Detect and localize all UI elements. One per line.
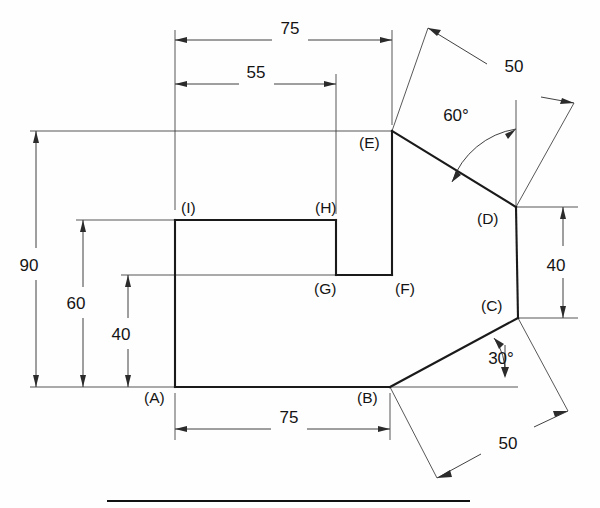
ext-line-50-lower-from-B — [390, 387, 437, 478]
extension-lines — [30, 28, 578, 478]
vertex-label-B: (B) — [357, 389, 378, 406]
arrowhead-lower-50-end — [553, 411, 568, 417]
dimension-lower-50: 50 — [437, 411, 568, 478]
dim-label-left-60: 60 — [67, 294, 86, 313]
dim-label-lower-50: 50 — [499, 434, 518, 453]
arrowhead-upper-50-end — [560, 98, 574, 104]
edge-C-D — [516, 207, 518, 318]
part-outline — [175, 131, 518, 387]
arrowhead-bottom-75-start — [175, 426, 187, 432]
arrowhead-top-75-end — [380, 37, 392, 43]
vertex-label-I: (I) — [181, 199, 196, 216]
dimension-left-40: 40 — [112, 275, 131, 387]
vertex-label-F: (F) — [395, 280, 415, 297]
vertex-label-A: (A) — [144, 389, 165, 406]
dim-line-lower-50-b — [534, 411, 568, 427]
dim-label-upper-50: 50 — [505, 57, 524, 76]
dim-label-left-40: 40 — [112, 325, 131, 344]
arrowhead-top-75-start — [175, 37, 187, 43]
ext-line-50-upper-from-E — [392, 28, 428, 131]
dim-label-angle-30: 30° — [488, 349, 514, 368]
vertex-label-G: (G) — [314, 280, 336, 297]
arrowhead-right-40-bottom — [560, 306, 566, 318]
dimension-angle-30: 30° — [488, 338, 514, 378]
dimension-right-40: 40 — [547, 207, 566, 318]
arrowhead-lower-50-start — [437, 470, 452, 478]
arrowhead-left-60-top — [80, 220, 86, 232]
arrowhead-left-90-bottom — [33, 375, 39, 387]
edge-D-E — [392, 131, 516, 207]
dim-label-angle-60: 60° — [443, 106, 469, 125]
dim-label-right-40: 40 — [547, 256, 566, 275]
arrowhead-left-90-top — [33, 131, 39, 143]
vertex-label-H: (H) — [315, 199, 337, 216]
vertex-label-D: (D) — [477, 210, 499, 227]
arrowhead-left-60-bottom — [80, 375, 86, 387]
dimension-left-90: 90 — [20, 131, 39, 387]
ext-line-50-upper-from-D — [516, 103, 574, 207]
drawing-svg: 75 55 75 90 — [0, 0, 600, 508]
dim-label-top-55: 55 — [247, 63, 266, 82]
vertex-label-E: (E) — [359, 134, 380, 151]
technical-drawing-canvas: 75 55 75 90 — [0, 0, 600, 508]
arrowhead-right-40-top — [560, 207, 566, 219]
vertex-label-C: (C) — [481, 297, 503, 314]
dim-label-bottom-75: 75 — [280, 408, 299, 427]
vertex-labels: (A) (B) (C) (D) (E) (F) (G) (H) (I) — [144, 134, 503, 406]
dim-label-top-75: 75 — [281, 19, 300, 38]
arrowhead-left-40-top — [125, 275, 131, 287]
dim-label-left-90: 90 — [20, 256, 39, 275]
arrowhead-angle-30-start — [494, 338, 504, 349]
dimension-bottom-75: 75 — [175, 408, 390, 432]
arrowhead-top-55-start — [175, 81, 187, 87]
dimension-top-75: 75 — [175, 19, 392, 43]
dimension-upper-50: 50 — [428, 28, 574, 104]
arrowhead-top-55-end — [324, 81, 336, 87]
ext-line-50-lower-from-C — [518, 318, 568, 411]
dimension-angle-60: 60° — [443, 106, 516, 182]
dimension-left-60: 60 — [67, 220, 86, 387]
arrowhead-left-40-bottom — [125, 375, 131, 387]
arrowhead-bottom-75-end — [378, 426, 390, 432]
dimension-top-55: 55 — [175, 63, 336, 87]
